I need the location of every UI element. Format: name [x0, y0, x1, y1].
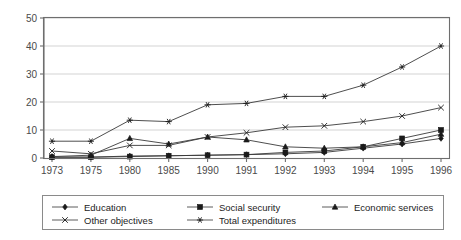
x-tick-label: 1973 [41, 165, 64, 176]
x-tick-label: 1985 [158, 165, 181, 176]
square-marker [198, 205, 203, 210]
line-chart: 01020304050 1973197519801985199019911992… [0, 0, 461, 240]
legend-label: Education [84, 202, 126, 213]
x-tick-label: 1980 [119, 165, 142, 176]
square-marker [244, 152, 249, 157]
x-tick-label: 1996 [430, 165, 453, 176]
x-tick-label: 1993 [313, 165, 336, 176]
x-tick-label: 1975 [80, 165, 103, 176]
legend-label: Social security [219, 202, 280, 213]
square-marker [283, 150, 288, 155]
y-tick-label: 10 [26, 125, 38, 136]
x-tick-label: 1995 [391, 165, 414, 176]
x-tick-label: 1990 [196, 165, 219, 176]
x-tick-label: 1994 [352, 165, 375, 176]
y-tick-label: 40 [26, 41, 38, 52]
x-tick-label: 1991 [235, 165, 258, 176]
legend-label: Other objectives [84, 215, 153, 226]
square-marker [205, 153, 210, 158]
chart-legend: EducationSocial securityEconomic service… [43, 196, 444, 230]
chart-figure: 01020304050 1973197519801985199019911992… [0, 0, 461, 240]
x-tick-label: 1992 [274, 165, 297, 176]
y-tick-label: 30 [26, 69, 38, 80]
square-marker [166, 153, 171, 158]
y-tick-label: 20 [26, 97, 38, 108]
y-tick-label: 50 [26, 13, 38, 24]
legend-label: Economic services [354, 202, 433, 213]
legend-label: Total expenditures [219, 215, 296, 226]
y-tick-label: 0 [31, 153, 37, 164]
